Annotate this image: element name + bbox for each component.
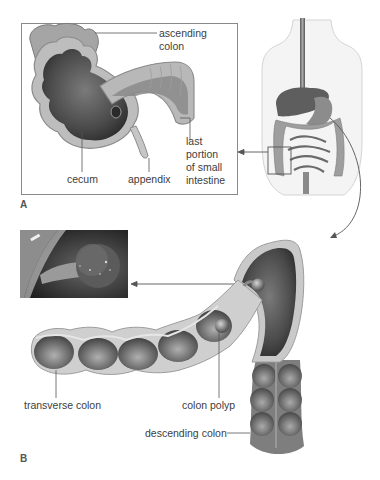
label-line: colon: [159, 40, 207, 53]
endoscopy-photo: [20, 230, 128, 298]
label-line: intestine: [186, 174, 225, 187]
label-transverse-colon: transverse colon: [24, 399, 101, 412]
label-last-portion-small-intestine: last portion of small intestine: [186, 135, 225, 187]
label-line: last: [186, 135, 225, 148]
label-descending-colon: descending colon: [145, 427, 227, 440]
label-appendix: appendix: [128, 173, 171, 186]
arrow-to-photo: [131, 282, 248, 287]
label-cecum: cecum: [67, 173, 98, 186]
panel-letter-b: B: [20, 453, 27, 464]
label-line: portion: [186, 148, 225, 161]
label-line: of small: [186, 161, 225, 174]
torso-overview: [262, 18, 362, 195]
label-ascending-colon: ascending colon: [159, 27, 207, 53]
label-line: ascending: [159, 27, 207, 40]
label-colon-polyp: colon polyp: [182, 399, 235, 412]
panel-letter-a: A: [20, 199, 27, 210]
